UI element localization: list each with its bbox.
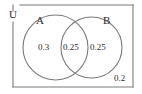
region-value-b-only: 0.25	[90, 43, 106, 52]
region-value-intersection: 0.25	[63, 43, 79, 52]
set-label-a: A	[36, 15, 44, 26]
set-label-b: B	[103, 15, 110, 26]
region-value-outside: 0.2	[114, 74, 125, 83]
universe-label: U	[9, 9, 17, 20]
region-value-a-only: 0.3	[38, 43, 49, 52]
venn-diagram-figure: U A B 0.3 0.25 0.25 0.2	[0, 0, 142, 94]
